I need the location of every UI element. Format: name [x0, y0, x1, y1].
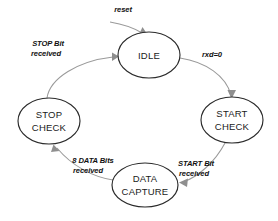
idle-to-start-check-path: [180, 58, 231, 95]
start-check-to-data-capture-arrowhead: [179, 179, 188, 188]
transition-label-stop-bit-line1: STOP Bit: [32, 39, 64, 48]
transition-label-data-bits-line1: 8 DATA Bits: [72, 156, 113, 165]
state-node-stop-check[interactable]: STOP CHECK: [18, 98, 80, 144]
state-node-idle[interactable]: IDLE: [118, 32, 180, 78]
transition-label-start-bit-line2: received: [179, 169, 209, 178]
fsm-diagram: IDLE START CHECK DATA CAPTURE STOP CHECK…: [0, 0, 278, 221]
state-node-data-capture[interactable]: DATA CAPTURE: [112, 163, 178, 207]
transition-label-stop-bit-line2: received: [31, 49, 61, 58]
state-label-stop-check-line1: STOP: [36, 109, 63, 120]
transition-label-reset: reset: [114, 5, 132, 14]
state-label-start-check-line1: START: [216, 108, 247, 119]
state-diagram-canvas: IDLE START CHECK DATA CAPTURE STOP CHECK…: [0, 0, 278, 221]
state-label-idle: IDLE: [138, 50, 160, 61]
state-node-start-check[interactable]: START CHECK: [201, 97, 263, 143]
transition-label-start-bit-line1: START Bit: [178, 159, 215, 168]
stop-check-to-idle-path: [47, 57, 113, 98]
state-label-data-capture-line1: DATA: [133, 173, 158, 184]
transition-label-data-bits-line2: received: [73, 166, 103, 175]
transition-stop-check-to-idle: [47, 53, 119, 99]
reset-arrow-path: [110, 22, 142, 33]
state-label-start-check-line2: CHECK: [215, 121, 250, 132]
state-label-data-capture-line2: CAPTURE: [122, 186, 169, 197]
transition-idle-to-start-check: [180, 58, 236, 99]
transition-label-rxd: rxd=0: [202, 50, 223, 59]
data-capture-to-stop-check-arrowhead: [51, 145, 60, 153]
state-label-stop-check-line2: CHECK: [32, 122, 67, 133]
